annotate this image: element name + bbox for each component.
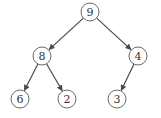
tree-node-9: 9: [81, 3, 99, 21]
node-label: 4: [135, 50, 142, 63]
tree-diagram: 9 8 4 6 2 3: [0, 0, 161, 118]
tree-node-2: 2: [58, 90, 76, 108]
edge-arrow-4-to-3: [121, 64, 134, 90]
nodes-group: 9 8 4 6 2 3: [11, 3, 147, 108]
edge-arrow-9-to-8: [49, 18, 83, 50]
node-label: 8: [39, 50, 46, 63]
edge-arrow-8-to-6: [24, 64, 38, 91]
node-label: 6: [17, 93, 24, 106]
tree-node-4: 4: [129, 47, 147, 65]
edge-arrow-8-to-2: [47, 64, 63, 91]
node-label: 2: [64, 93, 71, 106]
node-label: 9: [87, 6, 94, 19]
tree-node-6: 6: [11, 90, 29, 108]
tree-node-3: 3: [108, 90, 126, 108]
edge-arrow-9-to-4: [97, 18, 131, 50]
tree-node-8: 8: [33, 47, 51, 65]
node-label: 3: [114, 93, 121, 106]
